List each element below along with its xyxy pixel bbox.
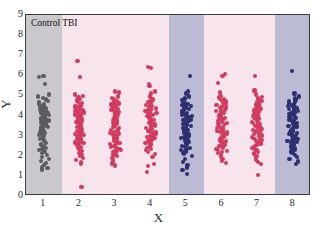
data-point: [75, 59, 79, 63]
x-tick-label: 1: [33, 197, 53, 208]
data-point: [113, 163, 117, 167]
x-tick-label: 7: [247, 197, 267, 208]
data-point: [152, 162, 156, 166]
data-point: [224, 161, 228, 165]
data-point: [45, 166, 49, 170]
data-point: [74, 158, 78, 162]
data-point: [154, 106, 158, 110]
y-tick-label: 8: [7, 29, 23, 39]
data-point: [256, 173, 260, 177]
y-tick-label: 5: [7, 89, 23, 99]
data-point: [119, 148, 123, 152]
x-axis-label: X: [0, 210, 317, 226]
data-point: [259, 162, 263, 166]
data-point: [47, 157, 51, 161]
y-tick-label: 9: [7, 9, 23, 19]
data-point: [116, 94, 120, 98]
x-tick-label: 2: [68, 197, 88, 208]
data-point: [36, 94, 40, 98]
x-tick-label: 5: [175, 197, 195, 208]
panel-title-label: Control TBI: [31, 18, 78, 28]
data-point: [79, 161, 83, 165]
x-tick-label: 4: [140, 197, 160, 208]
data-point: [109, 144, 113, 148]
data-point: [154, 111, 158, 115]
data-point: [147, 84, 151, 88]
data-point: [187, 94, 191, 98]
data-point: [190, 154, 194, 158]
y-tick-label: 6: [7, 69, 23, 79]
strip-plot-figure: 0123456789 Y Control TBI 12345678 X: [0, 0, 317, 235]
data-point: [294, 162, 298, 166]
x-tick-label: 8: [282, 197, 302, 208]
data-point: [185, 172, 189, 176]
data-point: [145, 170, 149, 174]
data-point: [150, 155, 154, 159]
data-point: [153, 89, 157, 93]
data-point: [295, 155, 299, 159]
data-point: [180, 168, 184, 172]
y-axis-tick-labels: 0123456789: [5, 0, 23, 235]
y-axis-label: Y: [0, 99, 14, 108]
data-point: [115, 154, 119, 158]
data-point: [292, 91, 296, 95]
y-tick-label: 2: [7, 150, 23, 160]
y-tick-label: 0: [7, 190, 23, 200]
y-tick-label: 3: [7, 130, 23, 140]
data-point: [287, 157, 291, 161]
data-point: [47, 92, 51, 96]
plot-area: Control TBI: [25, 14, 310, 195]
x-tick-label: 6: [211, 197, 231, 208]
y-tick-label: 7: [7, 49, 23, 59]
data-point: [185, 165, 189, 169]
y-tick-label: 1: [7, 170, 23, 180]
data-point: [297, 94, 301, 98]
data-point: [258, 142, 262, 146]
y-tick-label: 4: [7, 110, 23, 120]
data-point: [79, 185, 83, 189]
x-tick-label: 3: [104, 197, 124, 208]
